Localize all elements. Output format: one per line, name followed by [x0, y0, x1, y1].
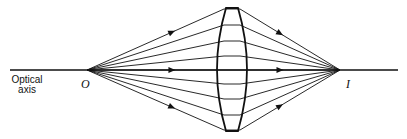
object-point-label: O: [81, 77, 90, 92]
arrow-head: [168, 67, 175, 73]
optical-axis-label: Optical axis: [9, 75, 45, 95]
arrow-head: [275, 104, 283, 110]
arrow-head: [275, 29, 283, 35]
arrow-head: [277, 67, 284, 73]
lens-diagram: [0, 0, 407, 139]
image-point-label: I: [346, 77, 350, 92]
